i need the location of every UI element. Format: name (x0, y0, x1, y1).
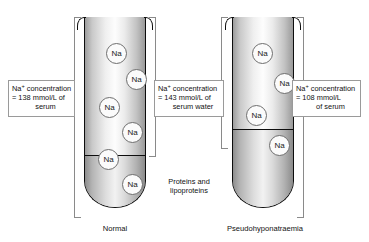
sodium-ion-marker: Na (122, 122, 143, 143)
ion-label: Na (104, 104, 114, 112)
sodium-ion-marker: Na (246, 105, 267, 126)
left-tube-total-serum-bracket (74, 17, 81, 218)
tube-rim-left (77, 17, 86, 30)
bracket-cap-top (297, 17, 304, 18)
callout-line-2: = 108 mmol/L (296, 93, 357, 102)
tube-rim-left (225, 17, 234, 30)
ion-label: Na (127, 181, 137, 189)
callout-line-1: Na+ concentration (12, 84, 71, 93)
ion-label: Na (279, 80, 289, 88)
callout-line-1-rest: concentration (309, 84, 355, 93)
bracket-cap-bottom (297, 217, 304, 218)
callout-line-3: of serum (296, 102, 357, 111)
callout-line-1-rest: concentration (171, 84, 217, 93)
sodium-concentration-serum-pseudohyponatraemia-callout: Na+ concentration = 108 mmol/L of serum (292, 80, 361, 117)
ion-label: Na (257, 50, 267, 58)
bracket-cap-bottom (74, 217, 81, 218)
annotation-line-2: lipoproteins (158, 186, 220, 195)
callout-line-2: = 138 mmol/L of (12, 93, 71, 102)
normal-test-tube: Na Na Na Na Na Na (84, 17, 146, 208)
ion-label: Na (111, 50, 121, 58)
ion-label: Na (274, 142, 284, 150)
ion-label: Na (131, 76, 141, 84)
callout-line-1-rest: concentration (25, 84, 71, 93)
sodium-concentration-serum-normal-callout: Na+ concentration = 138 mmol/L of serum (8, 80, 75, 117)
callout-line-3: serum (12, 102, 71, 111)
annotation-line-1: Proteins and (158, 177, 220, 186)
sodium-ion-marker: Na (122, 174, 143, 195)
pseudohyponatraemia-test-tube: Na Na Na Na (232, 17, 294, 208)
sodium-ion-marker: Na (106, 43, 127, 64)
sodium-ion-marker: Na (98, 149, 119, 170)
caption-pseudohyponatraemia: Pseudohyponatraemia (210, 224, 320, 233)
ion-label: Na (251, 112, 261, 120)
callout-line-1: Na+ concentration (158, 84, 220, 93)
caption-normal: Normal (75, 224, 155, 233)
sodium-concentration-serum-water-callout: Na+ concentration = 143 mmol/L of serum … (154, 80, 224, 117)
sodium-ion-marker: Na (126, 69, 147, 90)
callout-line-2: = 143 mmol/L of (158, 93, 220, 102)
callout-line-1: Na+ concentration (296, 84, 357, 93)
sodium-ion-marker: Na (252, 43, 273, 64)
bracket-cap-top (149, 17, 156, 18)
right-tube-total-serum-bracket (297, 17, 304, 218)
ion-label: Na (127, 129, 137, 137)
figure-canvas: Na Na Na Na Na Na Na Na Na Na Na+ concen… (0, 0, 369, 242)
bracket-cap-bottom (149, 156, 156, 157)
proteins-lipoproteins-annotation: Proteins and lipoproteins (158, 177, 220, 196)
callout-line-3: serum water (158, 102, 220, 111)
bracket-spine (303, 17, 304, 218)
sodium-ion-marker: Na (99, 97, 120, 118)
bracket-cap-bottom (221, 148, 228, 149)
sodium-ion-marker: Na (269, 135, 290, 156)
bracket-spine (74, 17, 75, 218)
ion-label: Na (103, 156, 113, 164)
